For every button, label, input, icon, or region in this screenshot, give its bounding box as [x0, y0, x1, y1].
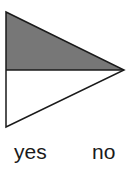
label-yes: yes	[14, 141, 47, 162]
label-no: no	[92, 141, 115, 162]
